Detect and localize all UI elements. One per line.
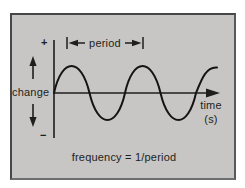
period-label: period: [89, 37, 121, 49]
diagram-canvas: | --> + − change period time (s) frequen…: [0, 0, 245, 188]
down-arrow-icon: [29, 104, 36, 127]
period-left-arrowhead-icon: [69, 40, 79, 47]
x-axis-label: time: [200, 99, 222, 111]
period-right-arrowhead-icon: [132, 40, 142, 47]
y-axis-positive-sign: +: [41, 36, 48, 48]
up-arrow-icon: [29, 56, 36, 79]
frequency-formula-caption: frequency = 1/period: [72, 151, 177, 163]
x-axis-unit-label: (s): [204, 113, 217, 125]
x-axis-arrowhead-icon: [206, 89, 220, 98]
y-axis-negative-sign: −: [40, 129, 47, 141]
y-axis-label: change: [12, 86, 49, 98]
